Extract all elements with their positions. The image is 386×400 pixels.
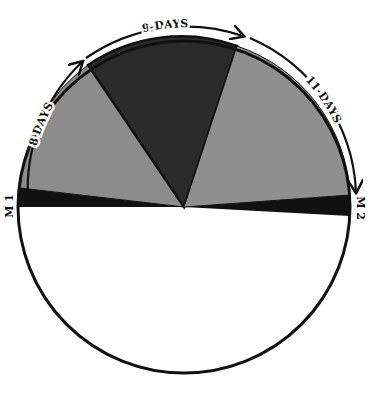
label-m2: M 2	[354, 196, 367, 220]
label-m1: M 1	[3, 194, 16, 218]
moon-phase-diagram: 8 DAYS 9-DAYS 11-DAYS M 1 M 2	[0, 0, 386, 400]
label-9-days: 9-DAYS	[141, 17, 188, 35]
